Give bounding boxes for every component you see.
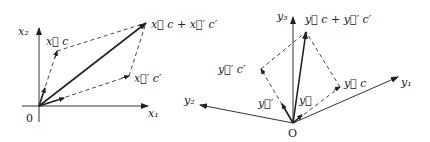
parallelogram-top-edge — [57, 23, 146, 51]
y-label: y⃗ — [298, 94, 312, 107]
yc-label: y⃗ c — [343, 77, 366, 90]
y3-axis-label: y₃ — [276, 10, 288, 23]
y-prime-basis-vector — [282, 104, 293, 123]
origin-label: O — [288, 127, 297, 140]
sum-vector — [293, 32, 306, 123]
parallelogram-left-edge — [261, 32, 306, 69]
y-prime-label: y⃗′ — [257, 97, 274, 110]
right-diagram: y₃ y₁ y₂ O y⃗ c + y⃗′ c′ y⃗′ c′ y⃗ c y⃗′… — [183, 10, 412, 140]
y1-axis-label: y₁ — [400, 76, 412, 89]
x-prime-c-prime-arrowhead — [122, 76, 129, 78]
left-diagram: x₂ x₁ 0 x⃗ c x⃗′ c′ x⃗ c + x⃗′ c′ — [18, 18, 218, 125]
y-prime-c-prime-label: y⃗′ c′ — [217, 63, 246, 76]
y2-axis-label: y₂ — [183, 94, 195, 107]
parallelogram-right-edge — [306, 32, 340, 87]
sum-label: y⃗ c + y⃗′ c′ — [304, 13, 372, 26]
vector-addition-diagram: x₂ x₁ 0 x⃗ c x⃗′ c′ x⃗ c + x⃗′ c′ y₃ y₁ … — [0, 0, 430, 142]
origin-label: 0 — [26, 112, 33, 125]
xc-arrowhead — [55, 51, 57, 58]
y-prime-c-prime-arrowhead — [261, 69, 264, 74]
x1-axis-label: x₁ — [148, 107, 159, 120]
x2-axis-label: x₂ — [18, 25, 29, 38]
yc-arrowhead — [334, 87, 340, 90]
xc-label: x⃗ c — [46, 35, 68, 48]
x-prime-basis-vector — [39, 98, 64, 106]
parallelogram-right-edge — [129, 23, 146, 76]
sum-label: x⃗ c + x⃗′ c′ — [151, 18, 218, 31]
y2-axis — [200, 105, 293, 123]
x-prime-c-prime-label: x⃗′ c′ — [134, 72, 162, 85]
